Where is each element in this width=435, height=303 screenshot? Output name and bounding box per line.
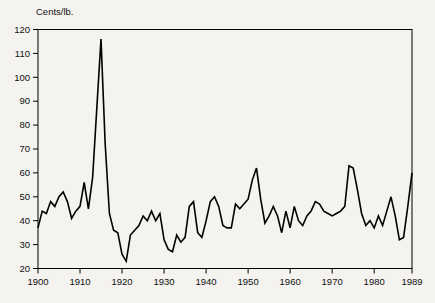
chart-title: Cents/lb.	[36, 6, 74, 17]
x-axis-label: 1980	[364, 276, 385, 287]
chart-canvas: Cents/lb. 203040506070809010011012019001…	[0, 0, 435, 303]
x-axis-label: 1950	[238, 276, 259, 287]
price-chart-figure: Cents/lb. 203040506070809010011012019001…	[0, 0, 435, 303]
x-axis-label: 1940	[196, 276, 217, 287]
y-axis-label: 80	[19, 119, 30, 130]
y-axis-label: 20	[19, 263, 30, 274]
x-axis-label: 1970	[322, 276, 343, 287]
y-axis-label: 100	[14, 72, 30, 83]
y-axis-label: 120	[14, 24, 30, 35]
y-axis-label: 40	[19, 215, 30, 226]
y-axis-label: 30	[19, 239, 30, 250]
y-axis-label: 60	[19, 167, 30, 178]
chart-plot: 2030405060708090100110120190019101920193…	[14, 24, 422, 287]
price-line	[38, 39, 412, 261]
y-axis-label: 70	[19, 143, 30, 154]
x-axis-label: 1920	[111, 276, 132, 287]
x-axis-label: 1989	[401, 276, 422, 287]
y-axis-label: 90	[19, 95, 30, 106]
y-axis-label: 50	[19, 191, 30, 202]
x-axis-label: 1910	[69, 276, 90, 287]
x-axis-label: 1960	[280, 276, 301, 287]
x-axis-label: 1930	[153, 276, 174, 287]
x-axis-label: 1900	[27, 276, 48, 287]
y-axis-label: 110	[15, 48, 30, 59]
